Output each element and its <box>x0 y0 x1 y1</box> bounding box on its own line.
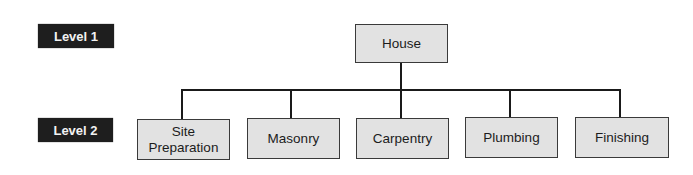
child-node-masonry: Masonry <box>247 118 340 159</box>
root-connector-vertical <box>400 63 402 91</box>
child-node-finishing: Finishing <box>575 117 669 158</box>
connector-masonry <box>290 89 292 118</box>
root-node-house: House <box>355 24 448 63</box>
site-preparation-line1: Site <box>172 124 195 140</box>
connector-finishing <box>619 89 621 117</box>
level-1-badge: Level 1 <box>38 24 114 48</box>
child-node-site-preparation: Site Preparation <box>137 119 230 160</box>
connector-carpentry <box>400 89 402 118</box>
child-node-carpentry: Carpentry <box>356 118 449 159</box>
connector-plumbing <box>509 89 511 117</box>
child-node-plumbing: Plumbing <box>465 117 558 158</box>
connector-site-preparation <box>181 89 183 119</box>
site-preparation-line2: Preparation <box>149 140 219 156</box>
level-2-badge: Level 2 <box>38 118 113 142</box>
